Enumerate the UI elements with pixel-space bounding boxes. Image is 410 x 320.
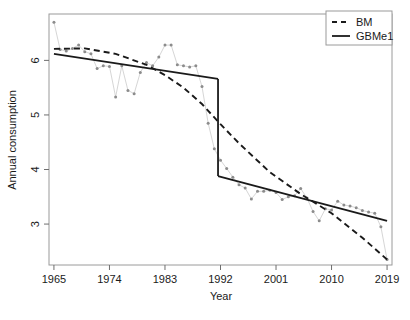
data-point (170, 44, 173, 47)
x-tick-label: 1965 (42, 273, 66, 285)
data-point (262, 190, 265, 193)
x-tick-label: 1983 (153, 273, 177, 285)
y-axis-title: Annual consumption (6, 90, 18, 190)
data-point (299, 187, 302, 190)
data-point (238, 183, 241, 186)
data-point (200, 85, 203, 88)
data-point (219, 159, 222, 162)
y-tick-label: 5 (29, 112, 41, 118)
data-point (89, 52, 92, 55)
data-point (188, 65, 191, 68)
y-tick-label: 4 (29, 166, 41, 172)
data-point (244, 187, 247, 190)
x-axis-title: Year (210, 290, 233, 302)
data-point (213, 147, 216, 150)
data-point (65, 50, 68, 53)
data-point (312, 210, 315, 213)
y-tick-label: 3 (29, 221, 41, 227)
data-point (139, 71, 142, 74)
chart-container: 19651974198319922001201020193456 BMGBMe1… (0, 0, 410, 320)
data-point (281, 198, 284, 201)
data-point (330, 208, 333, 211)
data-point (207, 122, 210, 125)
data-point (342, 203, 345, 206)
data-point (373, 212, 376, 215)
data-point (194, 64, 197, 67)
data-point (163, 44, 166, 47)
data-point (77, 44, 80, 47)
data-point (225, 167, 228, 170)
data-point (52, 21, 55, 24)
data-point (126, 89, 129, 92)
x-tick-label: 1974 (97, 273, 121, 285)
chart-background (0, 0, 410, 320)
data-point (102, 64, 105, 67)
data-point (379, 225, 382, 228)
chart-svg: 19651974198319922001201020193456 BMGBMe1… (0, 0, 410, 320)
data-point (83, 50, 86, 53)
data-point (361, 209, 364, 212)
data-point (176, 63, 179, 66)
data-point (367, 211, 370, 214)
data-point (336, 200, 339, 203)
legend-label-bm: BM (356, 16, 373, 28)
data-point (231, 176, 234, 179)
data-point (108, 65, 111, 68)
x-tick-label: 1992 (208, 273, 232, 285)
data-point (133, 92, 136, 95)
data-point (250, 197, 253, 200)
data-point (71, 47, 74, 50)
data-point (114, 95, 117, 98)
data-point (355, 206, 358, 209)
data-point (318, 219, 321, 222)
legend-box: BMGBMe1 (326, 11, 393, 45)
data-point (349, 205, 352, 208)
data-point (256, 190, 259, 193)
data-point (182, 64, 185, 67)
x-tick-label: 2001 (264, 273, 288, 285)
x-tick-label: 2010 (319, 273, 343, 285)
legend-label-gbme1: GBMe1 (356, 30, 393, 42)
y-tick-label: 6 (29, 57, 41, 63)
data-point (157, 56, 160, 59)
data-point (96, 67, 99, 70)
x-tick-label: 2019 (375, 273, 399, 285)
